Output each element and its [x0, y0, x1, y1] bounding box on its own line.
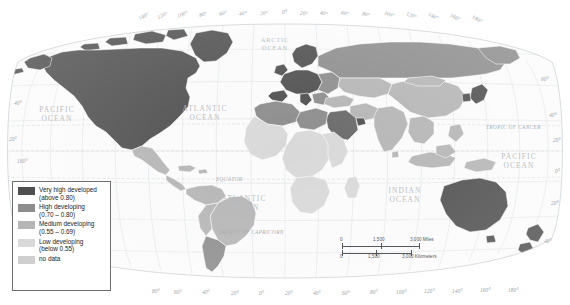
lon-label-top-7: 0°: [282, 9, 287, 15]
lon-label-top-6: 20°: [260, 10, 268, 17]
lat-label-right-0: 60°: [541, 76, 549, 82]
lat-label-left-2: 160°: [17, 158, 28, 164]
lon-label-top-10: 60°: [340, 9, 349, 16]
label-tropic-of-cancer: TROPIC OF CANCER: [486, 124, 541, 130]
legend-swatch-high-developing: [18, 204, 35, 212]
lon-label-bottom-7: 60°: [342, 290, 350, 296]
scale-tick-miles-0: [342, 243, 343, 249]
legend-item-no-data[interactable]: no data: [18, 255, 106, 264]
legend-range-very-high-developed: (above 0.80): [39, 194, 97, 202]
label-equator: EQUATOR: [216, 176, 243, 182]
legend-range-medium-developing: (0.55 – 0.69): [39, 228, 94, 236]
lon-label-bottom-12: 160°: [480, 287, 491, 293]
scale-label-km-1: 1,500: [368, 254, 380, 259]
ocean-label-indian: INDIAN OCEAN: [378, 186, 432, 204]
lon-label-bottom-8: 80°: [370, 289, 378, 295]
lat-label-right-4: 20°: [551, 200, 559, 206]
map-legend: Very high developed (above 0.80) High de…: [12, 181, 111, 291]
ocean-label-pacific-west: PACIFIC OCEAN: [492, 152, 546, 170]
legend-swatch-low-developing: [18, 239, 35, 247]
legend-label-no-data: no data: [39, 255, 60, 262]
lat-label-right-3: 0°: [555, 168, 560, 174]
lat-label-right-1: 40°: [549, 112, 557, 118]
scale-label-km-0: 0: [340, 254, 343, 259]
legend-swatch-medium-developing: [18, 221, 35, 229]
lon-label-top-9: 40°: [320, 9, 329, 16]
legend-item-low-developing[interactable]: Low developing (below 0.55): [18, 238, 106, 253]
lon-label-bottom-6: 40°: [313, 290, 321, 296]
world-map: 140° 120° 100° 80° 60° 40° 20° 0° 20° 40…: [0, 0, 570, 305]
legend-label-very-high-developed: Very high developed: [39, 186, 97, 193]
scale-tick-miles-1: [381, 243, 382, 249]
lon-label-bottom-0: 80°: [152, 288, 160, 294]
legend-label-low-developing: Low developing: [39, 238, 83, 245]
legend-item-very-high-developed[interactable]: Very high developed (above 0.80): [18, 186, 106, 201]
lon-label-top-5: 40°: [239, 9, 248, 16]
lon-label-bottom-3: 20°: [231, 290, 239, 296]
lon-label-bottom-4: 0°: [259, 290, 264, 296]
lat-label-right-2: 20°: [553, 137, 561, 143]
ocean-label-atlantic-north: ATLANTIC OCEAN: [176, 104, 234, 122]
lat-label-left-0: 40°: [14, 100, 22, 106]
legend-range-low-developing: (below 0.55): [39, 245, 83, 253]
ocean-label-atlantic-south: ATLANTIC OCEAN: [215, 194, 273, 212]
label-tropic-of-capricorn: TROPIC OF CAPRICORN: [219, 229, 284, 235]
lon-label-bottom-11: 140°: [452, 288, 463, 294]
legend-label-medium-developing: Medium developing: [39, 220, 94, 227]
lon-label-bottom-13: 180°: [508, 287, 519, 293]
lon-label-top-8: 20°: [300, 10, 308, 17]
scale-label-km-2: 3,000 Kilometers: [402, 254, 436, 259]
lon-label-bottom-1: 60°: [174, 289, 182, 295]
scale-label-miles-2: 3,000 Miles: [410, 237, 434, 242]
lon-label-bottom-10: 120°: [424, 288, 435, 294]
legend-label-high-developing: High developing: [39, 203, 85, 210]
lat-label-left-1: 20°: [9, 136, 17, 142]
scale-label-miles-0: 0: [340, 237, 343, 242]
map-scale-bar: 0 1,500 3,000 Miles 0 1,500 3,000 Kilome…: [338, 238, 424, 260]
ocean-label-arctic: ARCTIC OCEAN: [252, 36, 298, 51]
lon-label-bottom-2: 40°: [202, 289, 210, 295]
legend-swatch-no-data: [18, 256, 35, 264]
scale-tick-miles-2: [419, 243, 420, 249]
ocean-label-pacific-east: PACIFIC OCEAN: [29, 105, 85, 123]
legend-range-high-developing: (0.70 – 0.80): [39, 211, 85, 219]
scale-label-miles-1: 1,500: [373, 237, 385, 242]
lat-label-right-5: 40°: [544, 238, 552, 244]
lon-label-bottom-5: 20°: [285, 290, 293, 296]
lon-label-bottom-9: 100°: [396, 289, 407, 295]
legend-item-high-developing[interactable]: High developing (0.70 – 0.80): [18, 203, 106, 218]
legend-item-medium-developing[interactable]: Medium developing (0.55 – 0.69): [18, 220, 106, 235]
legend-swatch-very-high-developed: [18, 187, 35, 195]
